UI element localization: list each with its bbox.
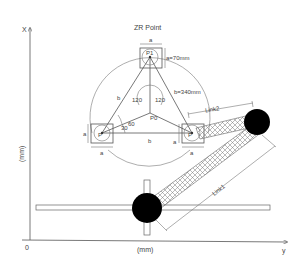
angle-120-left: 120 xyxy=(132,97,143,103)
joint-p1 xyxy=(140,44,165,68)
link2-dim-tick-right xyxy=(252,101,253,107)
workspace-circle-lower-arc xyxy=(108,150,190,166)
a-value-label: a=70mm xyxy=(166,55,190,61)
b-label-left: b xyxy=(117,95,121,101)
zr-point-title: ZR Point xyxy=(134,24,161,31)
link2-label: Link2 xyxy=(205,105,221,113)
link2-dim-tick-left xyxy=(188,112,189,118)
p2-a-dim-left: a xyxy=(83,131,87,137)
link2-dimension-line xyxy=(188,103,253,114)
horizontal-unit-label: (mm) xyxy=(137,246,153,254)
p2-a-dim-bottom: a xyxy=(100,150,104,156)
angle-60: 60 xyxy=(128,121,135,127)
horizontal-axis xyxy=(22,240,287,242)
p0-label: P0 xyxy=(150,115,158,121)
upper-ball-joint xyxy=(244,109,270,135)
p3-a-dim-bottom: a xyxy=(190,150,194,156)
angle-120-right: 120 xyxy=(155,97,166,103)
p1-a-dim: a xyxy=(149,37,153,43)
p3-a-dim-left: a xyxy=(173,139,177,145)
horizontal-axis-label: y xyxy=(282,247,286,255)
b-value-label: b=340mm xyxy=(174,89,201,95)
p3-label: P xyxy=(188,132,192,138)
side-b-left xyxy=(102,57,150,133)
side-b-right xyxy=(150,57,192,133)
angle-arc-60 xyxy=(118,115,122,124)
origin-label: 0 xyxy=(25,244,29,251)
vertical-unit-label: (mm) xyxy=(18,146,26,162)
p2-label: P xyxy=(98,132,102,138)
b-label-bottom: b xyxy=(148,138,152,144)
lower-ball-joint xyxy=(132,193,162,223)
robot-kinematics-diagram: X y 0 (mm) (mm) ZR Point P1 a a=70mm P a… xyxy=(0,0,303,262)
link1-dim-ext-top xyxy=(262,135,276,147)
vertical-axis-label: X xyxy=(22,26,27,33)
p1-label: P1 xyxy=(146,50,154,56)
link1-dim-ext-bottom xyxy=(155,219,167,231)
